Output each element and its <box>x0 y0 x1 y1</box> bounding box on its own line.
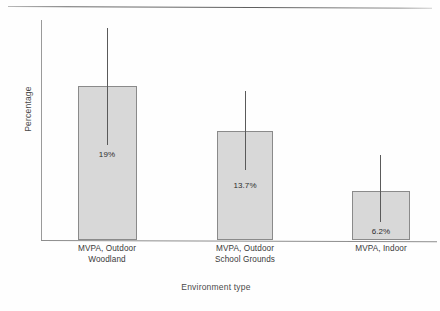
plot-area: Percentage Environment type 19% MVPA, Ou… <box>0 0 440 311</box>
y-axis-title: Percentage <box>23 81 33 137</box>
y-axis-line <box>41 20 42 241</box>
category-label-mvpa-outdoor-woodland: MVPA, Outdoor Woodland <box>47 244 167 265</box>
bar-chart-figure: Percentage Environment type 19% MVPA, Ou… <box>0 0 440 311</box>
error-bar-mvpa-outdoor-school-grounds <box>245 91 246 170</box>
error-bar-mvpa-outdoor-woodland <box>107 28 108 145</box>
category-label-mvpa-indoor: MVPA, Indoor <box>321 244 440 255</box>
category-label-mvpa-outdoor-school-grounds: MVPA, Outdoor School Grounds <box>185 244 305 265</box>
bar-value-label: 13.7% <box>215 181 275 190</box>
x-axis-line <box>41 240 437 242</box>
bar-value-label: 19% <box>77 150 137 159</box>
error-bar-mvpa-indoor <box>380 155 381 222</box>
x-axis-title: Environment type <box>0 282 432 292</box>
bar-value-label: 6.2% <box>351 227 411 236</box>
